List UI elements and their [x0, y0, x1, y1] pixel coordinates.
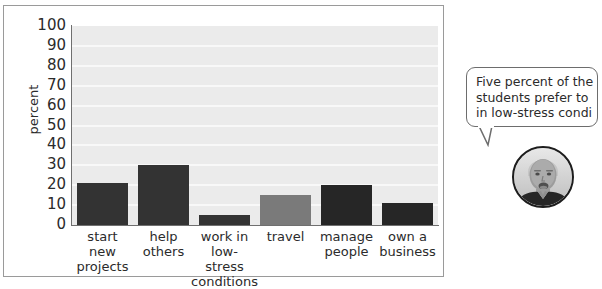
- speech-bubble-text: Five percent of the students prefer to i…: [476, 74, 602, 121]
- x-axis-line: [71, 225, 439, 226]
- gridline: [72, 45, 438, 47]
- bar: [321, 185, 372, 225]
- x-axis-label-line: projects: [66, 259, 139, 274]
- y-axis-tick-label: 10: [24, 197, 66, 212]
- x-axis-label-line: own a: [371, 229, 444, 244]
- x-axis-label-line: stress: [188, 259, 261, 274]
- bar-chart-figure: 1009080706050403020100 percent startnewp…: [3, 5, 444, 277]
- bar: [260, 195, 311, 225]
- y-axis-tick-label: 30: [24, 157, 66, 172]
- y-axis-title: percent: [26, 65, 41, 155]
- gridline: [72, 144, 438, 146]
- gridline: [72, 85, 438, 87]
- speech-bubble: Five percent of the students prefer to i…: [466, 67, 598, 127]
- avatar: [512, 146, 574, 208]
- speech-bubble-tail: [478, 125, 500, 147]
- x-axis-label-line: business: [371, 244, 444, 259]
- x-axis-label-line: conditions: [188, 274, 261, 289]
- gridline: [72, 105, 438, 107]
- y-axis-tick-label: 100: [24, 18, 66, 33]
- y-axis-tick-label: 20: [24, 177, 66, 192]
- person-photo-icon: [514, 148, 572, 206]
- bar: [138, 165, 189, 225]
- gridline: [72, 164, 438, 166]
- bar: [199, 215, 250, 225]
- bar: [382, 203, 433, 225]
- y-axis-line: [71, 25, 72, 226]
- gridline: [72, 65, 438, 67]
- x-axis-category-label: own abusiness: [371, 229, 444, 259]
- gridline: [72, 125, 438, 127]
- y-axis-tick-label: 0: [24, 217, 66, 232]
- bar: [77, 183, 128, 225]
- y-axis-tick-label: 90: [24, 38, 66, 53]
